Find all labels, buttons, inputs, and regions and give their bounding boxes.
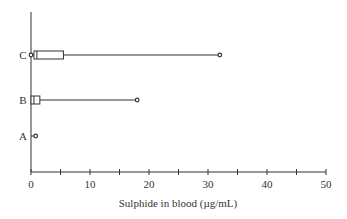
x-tick-label: 10 (85, 178, 97, 190)
outlier-point (135, 98, 139, 102)
iqr-box (31, 96, 40, 104)
x-tick-label: 0 (28, 178, 34, 190)
box-B: B (19, 94, 139, 106)
box-A: A (19, 130, 37, 142)
outlier-point (218, 53, 222, 57)
iqr-box (34, 51, 64, 59)
category-label: B (19, 94, 26, 106)
box-plots: CBA (19, 49, 222, 142)
axes: 01020304050 (28, 12, 332, 190)
x-tick-label: 20 (144, 178, 156, 190)
outlier-point (34, 134, 38, 138)
x-tick-label: 40 (262, 178, 274, 190)
x-tick-label: 50 (321, 178, 333, 190)
category-label: C (19, 49, 26, 61)
outlier-point (29, 53, 33, 57)
category-label: A (19, 130, 27, 142)
box-plot-chart: 01020304050 CBA Sulphide in blood (µg/mL… (0, 0, 347, 219)
x-tick-label: 30 (203, 178, 215, 190)
box-C: C (19, 49, 221, 61)
x-axis-label: Sulphide in blood (µg/mL) (119, 197, 238, 210)
